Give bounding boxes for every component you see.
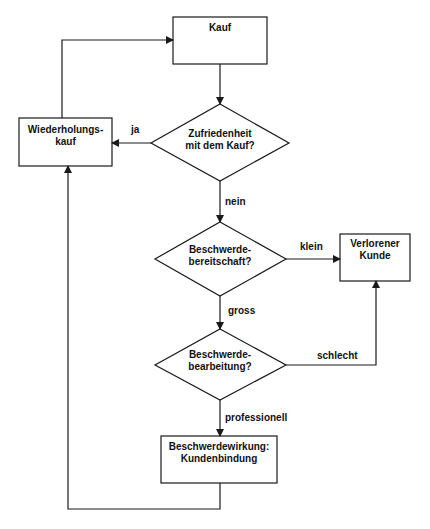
- verlorener-kunde-label: Verlorener Kunde: [340, 238, 410, 262]
- zufriedenheit-label: Zufriedenheit mit dem Kauf?: [170, 128, 270, 152]
- edge-label-gross: gross: [228, 305, 255, 317]
- edge-label-schlecht: schlecht: [317, 350, 358, 362]
- edge-label-klein: klein: [300, 241, 323, 253]
- arrow-wiederholung-to-kauf: [62, 40, 173, 118]
- kauf-label: Kauf: [173, 22, 267, 34]
- wiederholungskauf-label: Wiederholungs- kauf: [19, 124, 112, 148]
- edge-label-ja: ja: [131, 124, 139, 136]
- kundenbindung-label: Beschwerdewirkung: Kundenbindung: [161, 441, 277, 465]
- edge-label-nein: nein: [225, 196, 246, 208]
- bereitschaft-label: Beschwerde- bereitschaft?: [170, 244, 270, 268]
- edge-label-professionell: professionell: [225, 412, 287, 424]
- bearbeitung-label: Beschwerde- bearbeitung?: [170, 349, 270, 373]
